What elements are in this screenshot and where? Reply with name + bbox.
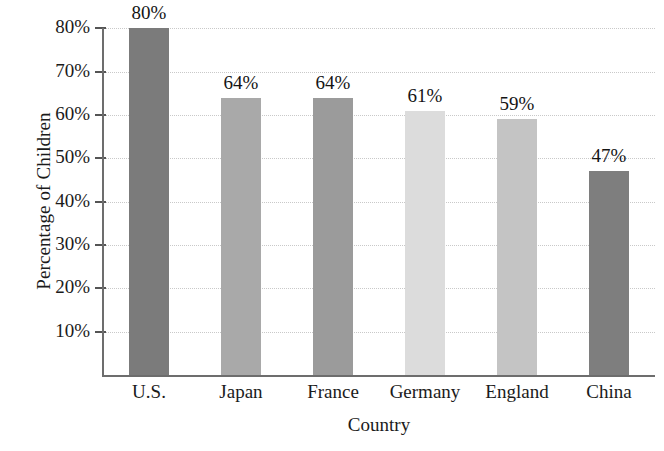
bar <box>221 98 261 375</box>
bar <box>589 171 629 375</box>
bar <box>129 28 169 375</box>
bar-value-label: 64% <box>293 72 373 94</box>
bars-layer <box>0 0 664 375</box>
x-axis-line <box>102 375 655 377</box>
bar-value-label: 61% <box>385 85 465 107</box>
bar <box>313 98 353 375</box>
bar-value-label: 80% <box>109 2 189 24</box>
category-label: China <box>554 381 664 403</box>
bar <box>405 111 445 375</box>
bar-chart: Percentage of Children 80%70%60%50%40%30… <box>0 0 664 451</box>
x-axis-title: Country <box>103 414 655 436</box>
bar-value-label: 47% <box>569 145 649 167</box>
bar-value-label: 64% <box>201 72 281 94</box>
bar <box>497 119 537 375</box>
bar-value-label: 59% <box>477 93 557 115</box>
